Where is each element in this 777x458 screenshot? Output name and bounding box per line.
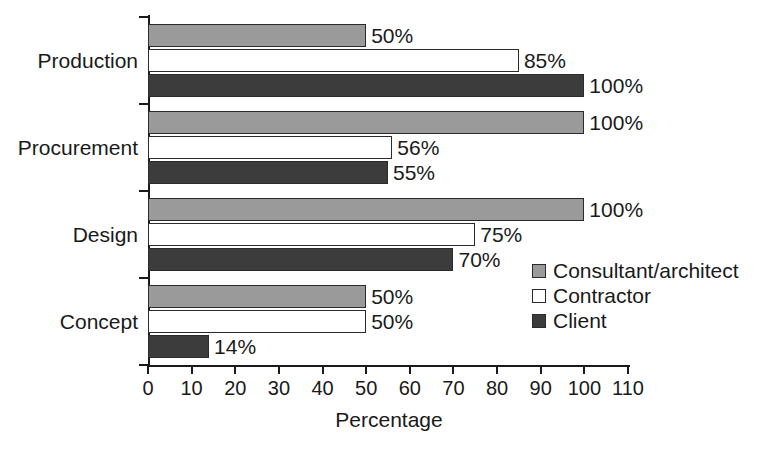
x-axis-tick — [583, 365, 585, 374]
bar — [148, 24, 366, 47]
x-axis-tick-label: 20 — [224, 377, 246, 400]
category-label: Concept — [60, 310, 138, 334]
y-axis-tick — [139, 277, 149, 279]
bar-chart: ProductionProcurementDesignConcept 50%85… — [0, 0, 777, 458]
bar-value-label: 56% — [392, 136, 439, 159]
x-axis-tick-label: 30 — [268, 377, 290, 400]
x-axis-tick — [278, 365, 280, 374]
x-axis-tick — [452, 365, 454, 374]
bar — [148, 335, 209, 358]
x-axis-tick-label: 110 — [612, 377, 644, 400]
bar — [148, 310, 366, 333]
x-axis-tick — [191, 365, 193, 374]
bar-value-label: 14% — [209, 335, 256, 358]
bar-value-label: 100% — [584, 198, 643, 221]
legend-swatch-icon — [532, 289, 546, 303]
bar-value-label: 85% — [519, 49, 566, 72]
bar — [148, 285, 366, 308]
bar — [148, 223, 475, 246]
y-axis-tick — [139, 16, 149, 18]
bar — [148, 74, 584, 97]
bar-value-label: 50% — [366, 285, 413, 308]
bar-value-label: 70% — [453, 248, 500, 271]
bar-value-label: 100% — [584, 111, 643, 134]
legend-item: Client — [532, 308, 739, 333]
category-label: Production — [38, 49, 138, 73]
bar-value-label: 75% — [475, 223, 522, 246]
legend-item: Consultant/architect — [532, 258, 739, 283]
legend-swatch-icon — [532, 314, 546, 328]
bar-value-label: 50% — [366, 24, 413, 47]
bar — [148, 111, 584, 134]
legend-item: Contractor — [532, 283, 739, 308]
x-axis-tick-label: 0 — [142, 377, 153, 400]
y-axis-tick — [139, 103, 149, 105]
x-axis-tick-label: 90 — [530, 377, 552, 400]
x-axis-tick — [147, 365, 149, 374]
x-axis-tick — [627, 365, 629, 374]
bar — [148, 248, 453, 271]
category-label: Procurement — [18, 136, 138, 160]
y-axis-tick — [139, 190, 149, 192]
bar — [148, 161, 388, 184]
chart-legend: Consultant/architectContractorClient — [532, 258, 739, 333]
x-axis-tick — [322, 365, 324, 374]
x-axis-tick-label: 10 — [181, 377, 203, 400]
bar — [148, 136, 392, 159]
x-axis-tick — [365, 365, 367, 374]
x-axis-tick-label: 100 — [568, 377, 601, 400]
bar — [148, 198, 584, 221]
x-axis-tick-label: 80 — [486, 377, 508, 400]
x-axis-line — [148, 365, 630, 367]
category-label: Design — [73, 223, 138, 247]
category-axis-labels: ProductionProcurementDesignConcept — [0, 0, 138, 458]
x-axis-tick — [496, 365, 498, 374]
x-axis-title: Percentage — [148, 408, 630, 432]
x-axis-tick-label: 60 — [399, 377, 421, 400]
legend-label: Consultant/architect — [553, 259, 739, 282]
bar — [148, 49, 519, 72]
y-axis-tick — [139, 364, 149, 366]
x-axis-tick — [540, 365, 542, 374]
x-axis-tick — [234, 365, 236, 374]
x-axis-tick-label: 40 — [311, 377, 333, 400]
x-axis-tick — [409, 365, 411, 374]
bar-value-label: 50% — [366, 310, 413, 333]
x-axis-tick-label: 50 — [355, 377, 377, 400]
bar-value-label: 55% — [388, 161, 435, 184]
legend-label: Contractor — [553, 284, 651, 307]
legend-label: Client — [553, 309, 607, 332]
bar-value-label: 100% — [584, 74, 643, 97]
x-axis-tick-label: 70 — [442, 377, 464, 400]
legend-swatch-icon — [532, 264, 546, 278]
